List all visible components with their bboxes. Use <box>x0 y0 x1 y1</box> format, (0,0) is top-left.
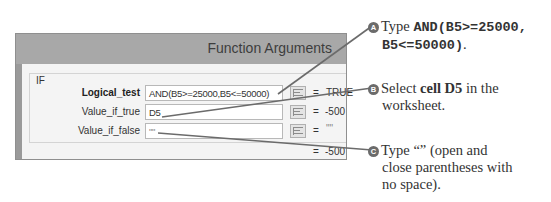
callout-a: AType AND(B5>=25000, B5<=50000). <box>368 18 538 54</box>
callout-a-code-line2: B5<=50000) <box>382 38 463 53</box>
callout-a-suffix: . <box>463 36 467 52</box>
leader-line-b <box>162 88 372 117</box>
callout-badge-a: A <box>368 22 379 33</box>
callout-c: CType “” (open and close parentheses wit… <box>368 142 538 193</box>
leader-line-c <box>158 133 372 150</box>
callout-c-line3: no space). <box>382 176 441 192</box>
callout-a-prefix: Type <box>381 18 413 34</box>
callout-b: BSelect cell D5 in the worksheet. <box>368 80 538 114</box>
callout-b-line2: worksheet. <box>382 97 445 113</box>
callout-b-bold: cell D5 <box>420 80 462 96</box>
callout-b-line1-rest: in the <box>462 80 498 96</box>
callout-c-line1: Type “” (open and <box>381 142 487 158</box>
callout-badge-c: C <box>368 146 379 157</box>
callout-a-code-line1: AND(B5>=25000, <box>413 20 526 35</box>
callout-b-prefix: Select <box>381 80 420 96</box>
leader-line-a <box>278 26 372 94</box>
callout-c-line2: close parentheses with <box>382 159 512 175</box>
callout-badge-b: B <box>368 84 379 95</box>
